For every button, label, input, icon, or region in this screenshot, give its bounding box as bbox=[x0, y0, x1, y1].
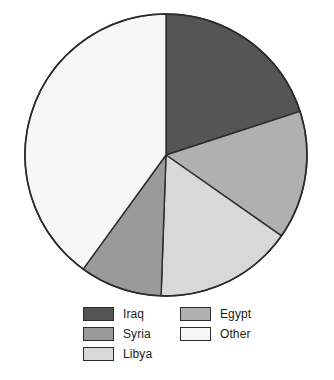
pie-chart-figure: Iraq Syria Libya Egypt Other bbox=[0, 0, 334, 380]
pie-slice-group bbox=[25, 14, 307, 296]
pie-chart-svg bbox=[0, 0, 334, 302]
legend-label-syria: Syria bbox=[123, 327, 151, 341]
legend-column-left: Iraq Syria Libya bbox=[83, 305, 152, 365]
legend-label-egypt: Egypt bbox=[220, 307, 251, 321]
legend-label-other: Other bbox=[220, 327, 251, 341]
legend-item-syria[interactable]: Syria bbox=[83, 325, 152, 343]
pie-chart-plot-area bbox=[0, 0, 334, 302]
legend-swatch-libya bbox=[83, 347, 114, 361]
legend-column-right: Egypt Other bbox=[180, 305, 251, 345]
legend-label-iraq: Iraq bbox=[123, 307, 144, 321]
legend-item-iraq[interactable]: Iraq bbox=[83, 305, 152, 323]
legend-item-libya[interactable]: Libya bbox=[83, 345, 152, 363]
legend-swatch-egypt bbox=[180, 307, 211, 321]
legend-swatch-iraq bbox=[83, 307, 114, 321]
legend-item-other[interactable]: Other bbox=[180, 325, 251, 343]
chart-legend: Iraq Syria Libya Egypt Other bbox=[0, 302, 334, 380]
legend-swatch-syria bbox=[83, 327, 114, 341]
legend-item-egypt[interactable]: Egypt bbox=[180, 305, 251, 323]
legend-swatch-other bbox=[180, 327, 211, 341]
legend-label-libya: Libya bbox=[123, 347, 152, 361]
